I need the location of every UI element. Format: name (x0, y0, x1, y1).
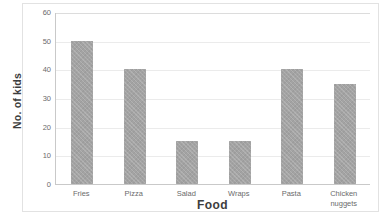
bar[interactable] (281, 69, 303, 184)
bar-slot (109, 13, 162, 184)
bar[interactable] (71, 41, 93, 184)
y-axis-tick-labels: 0102030405060 (23, 13, 55, 185)
y-axis-title: No. of kids (11, 46, 23, 156)
bar-slot (319, 13, 372, 184)
y-tick-label: 20 (25, 124, 51, 132)
bar-slot (266, 13, 319, 184)
x-axis-title: Food (55, 198, 370, 212)
bar[interactable] (229, 141, 251, 184)
plot-area (55, 13, 370, 185)
y-tick-label: 0 (25, 181, 51, 189)
y-tick-label: 40 (25, 66, 51, 74)
bar[interactable] (334, 84, 356, 184)
y-tick-label: 50 (25, 38, 51, 46)
bar-chart-figure: No. of kids 0102030405060 FriesPizzaSala… (0, 0, 382, 218)
y-tick-label: 10 (25, 152, 51, 160)
bar-slot (161, 13, 214, 184)
y-tick-label: 60 (25, 9, 51, 17)
bar-slot (56, 13, 109, 184)
bar[interactable] (176, 141, 198, 184)
bar[interactable] (124, 69, 146, 184)
bar-slot (214, 13, 267, 184)
y-tick-label: 30 (25, 95, 51, 103)
bars-group (56, 13, 370, 184)
